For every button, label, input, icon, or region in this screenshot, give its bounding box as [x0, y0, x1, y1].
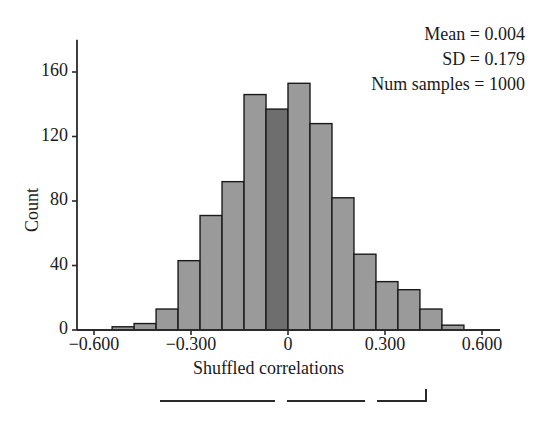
histogram-figure: Count Shuffled correlations Mean = 0.004… — [0, 0, 537, 423]
figure-footer-rules — [0, 0, 537, 423]
footer-rule-mid — [287, 400, 365, 402]
footer-tick-mark — [425, 389, 427, 402]
footer-rule-right — [377, 400, 427, 402]
footer-rule-left — [160, 400, 275, 402]
